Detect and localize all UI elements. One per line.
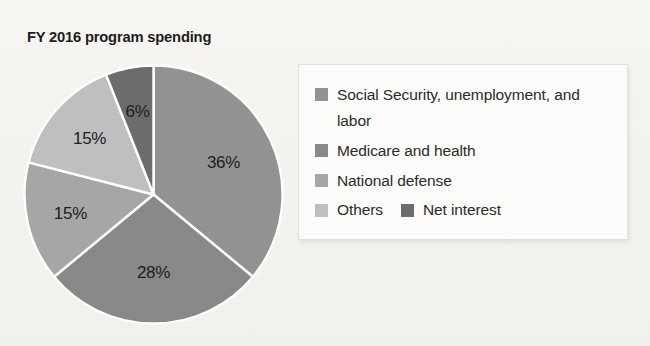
legend-item-label: Others (337, 198, 383, 222)
legend-item-label: Net interest (423, 198, 501, 222)
legend-swatch-icon (401, 204, 414, 217)
pie-slice-group (24, 66, 282, 324)
legend-swatch-icon (315, 204, 328, 217)
legend: Social Security, unemployment, and labor… (298, 64, 628, 240)
pie-chart: 36% 28% 15% 15% 6% (23, 64, 284, 325)
pie-label-net-interest: 6% (126, 102, 150, 121)
legend-swatch-icon (315, 88, 328, 101)
legend-item-label: Medicare and health (337, 138, 476, 164)
legend-row-others-net-interest: Others Net interest (315, 198, 613, 222)
legend-item-social-security[interactable]: Social Security, unemployment, and labor (315, 82, 613, 134)
legend-item-medicare-health[interactable]: Medicare and health (315, 138, 613, 164)
page-title: FY 2016 program spending (27, 28, 211, 46)
legend-swatch-icon (315, 144, 328, 157)
pie-label-national-defense: 15% (54, 204, 87, 223)
legend-swatch-icon (315, 174, 328, 187)
pie-chart-svg: 36% 28% 15% 15% 6% (23, 64, 284, 325)
legend-item-label: Social Security, unemployment, and labor (337, 82, 609, 134)
pie-label-social-security: 36% (207, 153, 240, 172)
legend-item-national-defense[interactable]: National defense (315, 168, 613, 194)
chart-canvas: FY 2016 program spending 36% 28% 15% 15%… (0, 0, 650, 346)
pie-label-others: 15% (73, 129, 106, 148)
legend-item-label: National defense (337, 168, 452, 194)
pie-label-medicare-health: 28% (137, 263, 170, 282)
